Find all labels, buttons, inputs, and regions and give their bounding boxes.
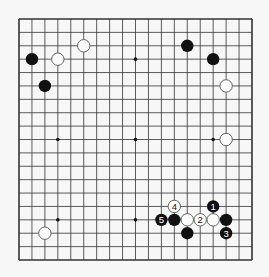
star-point [56,138,60,142]
white-stone [39,227,51,239]
black-stone-move-1: 1 [207,200,219,212]
go-board: 41523 [0,0,269,277]
star-point [56,218,60,222]
star-point [134,138,138,142]
black-stone [39,80,51,92]
move-number-label: 1 [211,201,216,212]
black-stone [181,40,193,52]
black-stone [181,227,193,239]
black-stone [168,214,180,226]
white-stone-move-2: 2 [194,214,206,226]
white-stone [78,40,90,52]
move-number-label: 5 [159,214,164,225]
star-point [134,218,138,222]
white-stone [52,53,64,65]
black-stone-move-5: 5 [155,214,167,226]
black-stone-move-3: 3 [220,227,232,239]
white-stone [207,214,219,226]
move-number-label: 4 [172,201,177,212]
star-point [211,138,215,142]
white-stone [220,133,232,145]
black-stone [207,53,219,65]
white-stone [181,214,193,226]
move-number-label: 2 [198,214,203,225]
black-stone [26,53,38,65]
white-stone-move-4: 4 [168,200,180,212]
move-number-label: 3 [223,228,228,239]
white-stone [220,80,232,92]
black-stone [220,214,232,226]
star-point [134,57,138,61]
